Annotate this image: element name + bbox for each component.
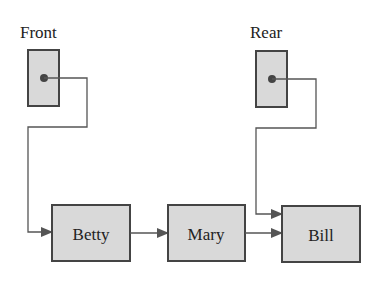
- queue-diagram: Front Rear Betty Mary Bill: [0, 0, 383, 286]
- front-label: Front: [20, 23, 57, 42]
- node-betty-label: Betty: [73, 225, 110, 244]
- node-bill-label: Bill: [308, 226, 334, 245]
- node-mary-label: Mary: [188, 225, 225, 244]
- rear-label: Rear: [250, 23, 282, 42]
